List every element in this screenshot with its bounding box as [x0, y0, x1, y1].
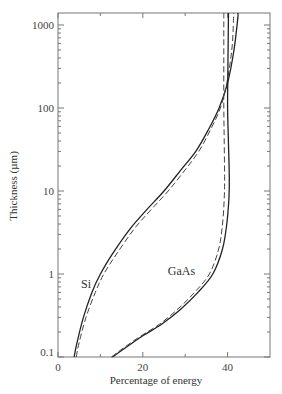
- tick-labels: 020400.11101001000: [32, 19, 234, 373]
- series-lines: [74, 13, 238, 357]
- series-si-dashed: [76, 13, 233, 357]
- series-si-solid: [74, 13, 238, 357]
- annotation-si: Si: [81, 277, 92, 291]
- annotation-gaas: GaAs: [168, 264, 196, 278]
- series-gaas-solid: [112, 13, 229, 357]
- y-axis-label: Thickness (µm): [7, 151, 20, 221]
- x-tick-label: 40: [222, 361, 234, 373]
- y-tick-label: 1000: [32, 19, 55, 31]
- x-axis-label: Percentage of energy: [110, 374, 203, 386]
- plot-frame: [58, 13, 270, 357]
- y-tick-label: 1: [49, 268, 55, 280]
- x-tick-label: 0: [55, 361, 61, 373]
- plot-border: [58, 13, 270, 357]
- energy-thickness-chart: 020400.11101001000 Percentage of energy …: [0, 0, 282, 394]
- series-gaas-dashed: [111, 13, 224, 357]
- x-tick-label: 20: [137, 361, 149, 373]
- axis-ticks: [58, 13, 270, 357]
- y-tick-label: 0.1: [40, 346, 54, 358]
- y-tick-label: 100: [38, 102, 55, 114]
- y-tick-label: 10: [43, 185, 55, 197]
